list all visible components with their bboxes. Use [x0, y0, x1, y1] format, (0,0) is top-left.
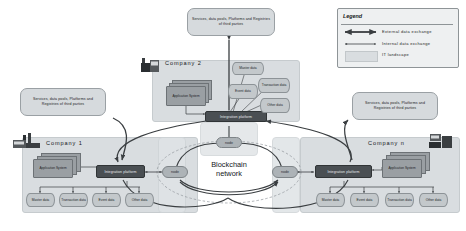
- legend-symbol-layer: [0, 0, 466, 231]
- legend-item-label-2: IT landscape: [382, 52, 409, 57]
- legend-it-landscape-swatch-icon: [345, 51, 378, 62]
- legend-item-label-0: External data exchange: [382, 29, 432, 34]
- legend-item-label-1: Internal data exchange: [382, 41, 430, 46]
- diagram-canvas: Services, data pools, Platforms and Regi…: [0, 0, 466, 231]
